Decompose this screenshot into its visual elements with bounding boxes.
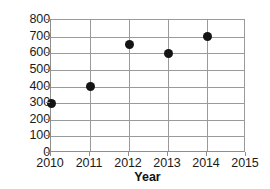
- x-axis-tick-mark: [167, 152, 168, 156]
- x-axis: 201020112012201320142015: [0, 0, 270, 189]
- scatter-chart: 0100200300400500600700800 20102011201220…: [0, 0, 270, 189]
- x-axis-title: Year: [50, 171, 245, 184]
- x-axis-tick-mark: [50, 152, 51, 156]
- x-axis-tick-mark: [128, 152, 129, 156]
- x-axis-tick-mark: [89, 152, 90, 156]
- x-axis-tick-mark: [206, 152, 207, 156]
- x-axis-tick-label: 2015: [215, 157, 270, 170]
- x-axis-tick-mark: [245, 152, 246, 156]
